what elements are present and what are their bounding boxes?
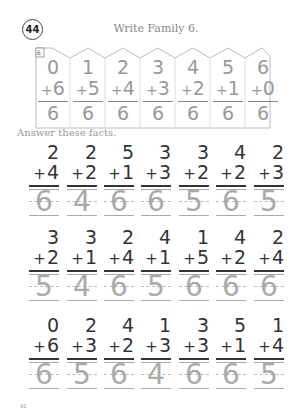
problem-addend-digit: 4 (272, 334, 284, 356)
traced-answer[interactable]: 6 (29, 188, 59, 216)
plus-sign: + (33, 250, 46, 268)
plus-sign: + (183, 338, 196, 356)
traced-answer[interactable]: 4 (141, 361, 171, 389)
plus-sign: + (258, 165, 271, 183)
problem-top-digit: 2 (272, 228, 284, 246)
plus-sign: + (181, 82, 193, 98)
addition-problem: 1+45 (250, 316, 286, 396)
problem-addend-digit: 2 (122, 334, 134, 356)
traced-answer[interactable]: 5 (254, 361, 284, 389)
problem-addend: +2 (108, 336, 134, 356)
plus-sign: + (71, 165, 84, 183)
problem-addend: +3 (145, 163, 171, 183)
traced-answer[interactable]: 6 (104, 273, 134, 301)
traced-answer[interactable]: 4 (67, 273, 97, 301)
problem-addend: +1 (145, 248, 171, 268)
problem-top-digit: 2 (85, 143, 97, 161)
problem-addend-digit: 5 (197, 246, 209, 268)
problem-addend: +3 (71, 336, 97, 356)
plus-sign: + (220, 165, 233, 183)
plus-sign: + (220, 338, 233, 356)
traced-answer[interactable]: 6 (179, 361, 209, 389)
traced-answer[interactable]: 5 (179, 188, 209, 216)
family-addend-digit: 5 (88, 77, 100, 99)
traced-answer[interactable]: 6 (254, 273, 284, 301)
problem-top-digit: 3 (197, 316, 209, 334)
problem-top-digit: 2 (122, 228, 134, 246)
family-addend: +5 (71, 78, 105, 100)
family-addend-digit: 2 (193, 77, 205, 99)
problem-addend-digit: 1 (122, 161, 134, 183)
problem-addend: +2 (71, 163, 97, 183)
problem-addend: +2 (220, 163, 246, 183)
family-addend: +0 (246, 78, 280, 100)
family-top-digit: 1 (71, 57, 105, 77)
plus-sign: + (111, 82, 123, 98)
problem-top-digit: 1 (272, 316, 284, 334)
plus-sign: + (76, 82, 88, 98)
problem-addend: +1 (71, 248, 97, 268)
addition-problem: 1+34 (137, 316, 173, 396)
addition-problem: 4+15 (137, 228, 173, 308)
addition-problem: 0+66 (25, 316, 61, 396)
addition-problem: 4+26 (100, 316, 136, 396)
problem-top-digit: 2 (85, 316, 97, 334)
family-answer: 6 (106, 103, 140, 123)
problem-top-digit: 1 (197, 228, 209, 246)
addition-problem: 4+26 (212, 143, 248, 223)
plus-sign: + (145, 250, 158, 268)
traced-answer[interactable]: 6 (29, 361, 59, 389)
family-top-digit: 5 (211, 57, 245, 77)
addition-problem: 4+26 (212, 228, 248, 308)
problem-addend-digit: 6 (47, 334, 59, 356)
addition-problem: 3+36 (137, 143, 173, 223)
problem-addend: +1 (220, 336, 246, 356)
problem-top-digit: 3 (159, 143, 171, 161)
instructions: Answer these facts. (17, 127, 116, 138)
traced-answer[interactable]: 6 (179, 273, 209, 301)
problem-addend: +2 (33, 248, 59, 268)
plus-sign: + (33, 165, 46, 183)
addition-problem: 3+36 (175, 316, 211, 396)
plus-sign: + (145, 165, 158, 183)
family-top-digit: 6 (246, 57, 280, 77)
traced-answer[interactable]: 6 (104, 361, 134, 389)
problem-addend: +5 (183, 248, 209, 268)
traced-answer[interactable]: 5 (254, 188, 284, 216)
addition-problem: 2+35 (250, 143, 286, 223)
traced-answer[interactable]: 6 (216, 361, 246, 389)
traced-answer[interactable]: 5 (67, 361, 97, 389)
addition-problem: 2+46 (25, 143, 61, 223)
traced-answer[interactable]: 6 (104, 188, 134, 216)
addition-problem: 2+24 (63, 143, 99, 223)
family-addend-digit: 1 (228, 77, 240, 99)
problem-addend-digit: 4 (47, 161, 59, 183)
traced-answer[interactable]: 6 (216, 273, 246, 301)
problem-addend: +4 (108, 248, 134, 268)
problem-addend-digit: 4 (272, 246, 284, 268)
traced-answer[interactable]: 6 (216, 188, 246, 216)
plus-sign: + (258, 338, 271, 356)
family-addend: +1 (211, 78, 245, 100)
problem-addend-digit: 1 (85, 246, 97, 268)
problem-addend: +4 (258, 336, 284, 356)
traced-answer[interactable]: 4 (67, 188, 97, 216)
problem-addend-digit: 3 (85, 334, 97, 356)
plus-sign: + (71, 250, 84, 268)
plus-sign: + (33, 338, 46, 356)
problem-top-digit: 2 (47, 143, 59, 161)
plus-sign: + (251, 82, 263, 98)
plus-sign: + (41, 82, 53, 98)
problem-addend: +3 (145, 336, 171, 356)
family-addend: +2 (176, 78, 210, 100)
plus-sign: + (71, 338, 84, 356)
family-answer: 6 (246, 103, 280, 123)
problem-addend: +2 (220, 248, 246, 268)
problem-addend-digit: 1 (234, 334, 246, 356)
traced-answer[interactable]: 5 (141, 273, 171, 301)
plus-sign: + (183, 250, 196, 268)
traced-answer[interactable]: 5 (29, 273, 59, 301)
family-top-digit: 0 (36, 57, 70, 77)
problem-addend-digit: 2 (197, 161, 209, 183)
traced-answer[interactable]: 6 (141, 188, 171, 216)
